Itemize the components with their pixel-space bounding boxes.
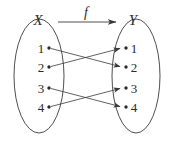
mapping-arrows-group	[51, 49, 120, 107]
domain-set-label: X	[32, 12, 43, 28]
domain-element-label-4: 4	[38, 100, 45, 115]
domain-elements-group: 1 2 3 4	[38, 41, 51, 115]
domain-set-ellipse	[14, 19, 64, 133]
mapping-diagram-figure: X Y f 1 2 3 4 1 2 3	[0, 0, 169, 141]
codomain-element-label-4: 4	[131, 100, 138, 115]
domain-element-label-1: 1	[38, 41, 45, 56]
domain-element-dot-3	[47, 86, 50, 89]
codomain-element-dot-2	[124, 65, 127, 68]
codomain-element-dot-1	[124, 46, 127, 49]
domain-element-label-2: 2	[38, 60, 45, 75]
domain-element-dot-4	[47, 105, 50, 108]
codomain-elements-group: 1 2 3 4	[124, 41, 137, 115]
domain-element-dot-2	[47, 65, 50, 68]
diagram-canvas: X Y f 1 2 3 4 1 2 3	[0, 0, 169, 141]
domain-element-label-3: 3	[38, 81, 45, 96]
codomain-set-ellipse	[112, 19, 160, 133]
codomain-set-label: Y	[129, 12, 139, 28]
codomain-element-dot-3	[124, 86, 127, 89]
codomain-element-label-1: 1	[131, 41, 138, 56]
codomain-element-label-3: 3	[131, 81, 138, 96]
codomain-element-dot-4	[124, 105, 127, 108]
function-label: f	[84, 5, 90, 20]
function-arrow-group: f	[58, 5, 116, 22]
codomain-element-label-2: 2	[131, 60, 138, 75]
domain-element-dot-1	[47, 46, 50, 49]
